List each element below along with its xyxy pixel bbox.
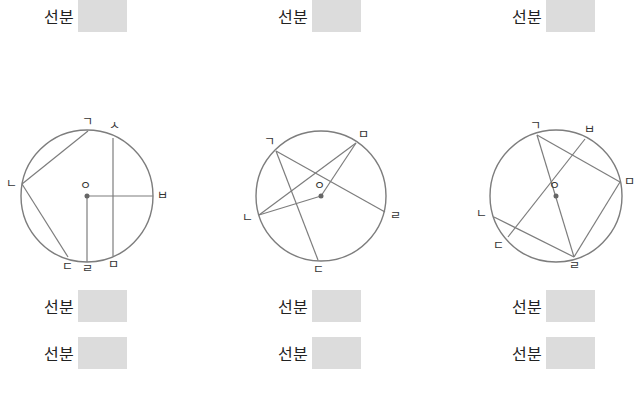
segment-ㅇㄴ [259,196,321,215]
point-label: ㄱ [264,135,275,149]
point-label: ㄱ [82,115,93,129]
center-label: ㅇ [80,179,91,193]
segment-ㄷㅂ [508,139,585,237]
point-label: ㄷ [493,239,504,253]
point-label: ㅂ [584,123,595,137]
segment-ㅁㄹ [574,182,620,257]
circle-figure-2: ㅇㄱㅁㄴㄹㄷ [242,128,401,277]
segment-ㄱㄷ [276,151,318,260]
point-label: ㄴ [476,207,487,221]
point-label: ㄹ [569,259,580,273]
segment-ㄴㄹ [494,217,574,257]
segment-ㄴㅁ [259,143,356,215]
point-label: ㅁ [624,175,635,189]
point-label: ㅂ [157,189,168,203]
point-label: ㄴ [6,177,17,191]
point-label: ㄷ [62,260,73,274]
circle-figures: ㅇㄱㅅㄴㅂㄷㄹㅁㅇㄱㅁㄴㄹㄷㅇㄱㅂㅁㄴㄷㄹ [0,0,639,401]
point-label: ㅁ [108,258,119,272]
center-point [319,194,324,199]
point-label: ㅅ [109,119,120,133]
point-label: ㄴ [242,211,253,225]
point-label: ㄹ [82,262,93,276]
center-point [85,194,90,199]
circle-figure-1: ㅇㄱㅅㄴㅂㄷㄹㅁ [6,115,168,276]
circle-figure-3: ㅇㄱㅂㅁㄴㄷㄹ [476,119,635,273]
point-label: ㄱ [530,119,541,133]
point-label: ㅁ [358,128,369,142]
center-point [554,194,559,199]
segment-ㅇㅁ [321,143,356,196]
center-label: ㅇ [549,179,560,193]
point-label: ㄷ [313,263,324,277]
point-label: ㄹ [390,209,401,223]
center-label: ㅇ [314,179,325,193]
